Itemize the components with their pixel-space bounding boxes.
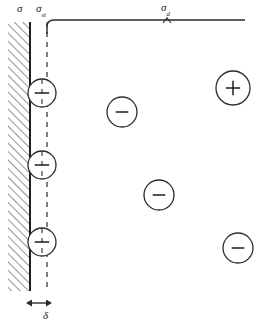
label-sigma-symbol: σ (17, 2, 22, 14)
wall-dislocation-symbol (28, 228, 56, 256)
diagram-vector-layer (0, 0, 261, 329)
label-delta-symbol: δ (43, 309, 48, 321)
label-sigma-d: σd (161, 2, 170, 16)
label-sigma-st-subscript: st (41, 11, 46, 18)
label-sigma-d-subscript: d (166, 10, 169, 17)
hatched-boundary-wall (8, 22, 30, 291)
free-dislocation-symbol (144, 180, 174, 210)
free-dislocation-group (107, 71, 253, 263)
free-dislocation-symbol (223, 233, 253, 263)
free-dislocation-symbol (107, 97, 137, 127)
wall-dislocation-symbol (28, 151, 56, 179)
label-sigma-st: σst (36, 3, 46, 17)
stress-bracket-line (47, 20, 245, 34)
free-dislocation-symbol (216, 71, 250, 105)
diagram-canvas: σ σst σd δ (0, 0, 261, 329)
label-sigma: σ (17, 3, 22, 17)
wall-dislocation-group (28, 79, 56, 256)
wall-dislocation-symbol (28, 79, 56, 107)
wall-hatch-fill (8, 22, 30, 291)
label-delta: δ (43, 310, 48, 321)
